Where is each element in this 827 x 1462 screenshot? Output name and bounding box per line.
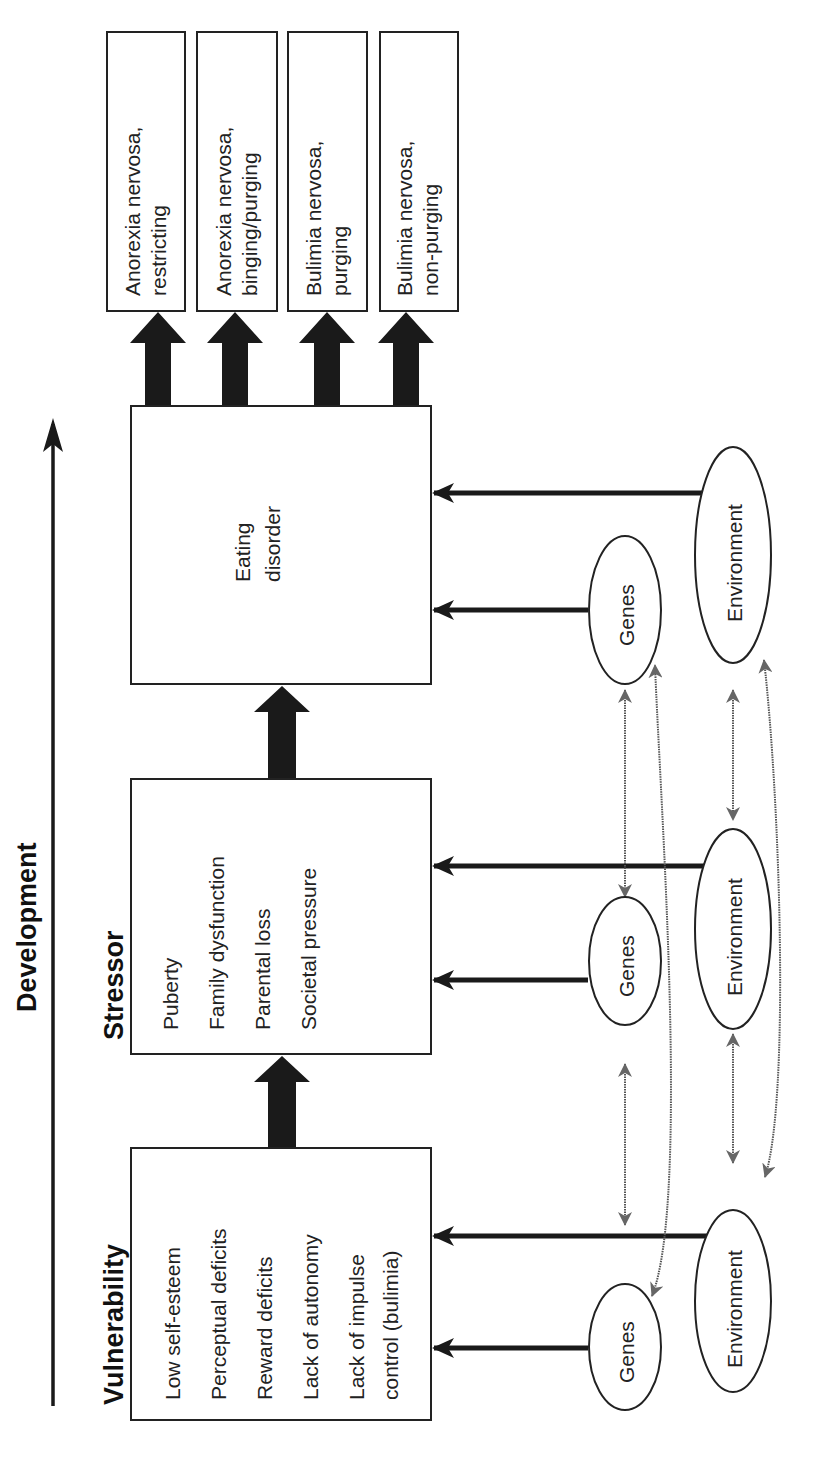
- outcome-bulimia-non-purging: Bulimia nervosa, non-purging: [380, 32, 458, 311]
- environment-label: Environment: [723, 504, 746, 622]
- outcome-line1: Anorexia nervosa,: [121, 127, 144, 296]
- outcome-anorexia-restricting: Anorexia nervosa, restricting: [107, 32, 185, 311]
- eating-disorder-line1: Eating: [231, 522, 254, 582]
- outcome-line1: Bulimia nervosa,: [302, 141, 325, 296]
- vulnerability-item: Low self-esteem: [161, 1247, 184, 1400]
- block-arrow-stressor-to-disorder-icon: [254, 686, 310, 779]
- genes-label: Genes: [615, 1321, 638, 1383]
- outcome-anorexia-binging-purging: Anorexia nervosa, binging/purging: [197, 32, 277, 311]
- vulnerability-item: Reward deficits: [253, 1256, 276, 1400]
- block-arrow-vulnerability-to-stressor-icon: [254, 1056, 310, 1148]
- development-axis: Development: [12, 418, 63, 1406]
- vulnerability-item: Lack of autonomy: [299, 1234, 322, 1400]
- genes-node-vulnerability: Genes: [589, 1284, 661, 1410]
- vulnerability-item: control (bulimia): [379, 1251, 402, 1400]
- block-arrow-icon: [299, 312, 355, 406]
- environment-node-disorder: Environment: [695, 447, 771, 663]
- stressor-item: Puberty: [159, 957, 182, 1030]
- outcome-line2: restricting: [147, 205, 170, 296]
- block-arrow-icon: [130, 312, 186, 406]
- stressor-item: Societal pressure: [297, 868, 320, 1030]
- outcome-block-arrows: [130, 312, 434, 406]
- genes-nodes: Genes Genes Genes: [589, 536, 661, 1410]
- genes-node-disorder: Genes: [589, 536, 661, 684]
- stressor-item: Family dysfunction: [205, 856, 228, 1030]
- genes-label: Genes: [615, 935, 638, 997]
- environment-label: Environment: [723, 878, 746, 996]
- environment-node-vulnerability: Environment: [695, 1210, 771, 1392]
- block-arrow-icon: [378, 312, 434, 406]
- outcome-line1: Anorexia nervosa,: [212, 127, 235, 296]
- environment-node-stressor: Environment: [695, 829, 771, 1029]
- stressor-box: Stressor Puberty Family dysfunction Pare…: [99, 779, 431, 1054]
- outcome-line2: non-purging: [419, 184, 442, 296]
- diagram-canvas: Development Anorexia nervosa, restrictin…: [0, 0, 827, 1462]
- vulnerability-item: Perceptual deficits: [207, 1228, 230, 1400]
- outcome-line2: purging: [328, 226, 351, 296]
- vulnerability-title: Vulnerability: [99, 1244, 129, 1405]
- genes-label: Genes: [615, 584, 638, 646]
- vulnerability-item: Lack of impulse: [345, 1254, 368, 1400]
- outcome-line2: binging/purging: [238, 152, 261, 296]
- block-arrow-icon: [207, 312, 263, 406]
- eating-disorder-box: Eating disorder: [131, 406, 431, 684]
- development-label: Development: [12, 842, 42, 1012]
- outcome-bulimia-purging: Bulimia nervosa, purging: [288, 32, 367, 311]
- environment-label: Environment: [723, 1250, 746, 1368]
- vulnerability-box: Vulnerability Low self-esteem Perceptual…: [99, 1148, 431, 1420]
- outcome-line1: Bulimia nervosa,: [393, 141, 416, 296]
- outcome-boxes: Anorexia nervosa, restricting Anorexia n…: [107, 32, 458, 311]
- eating-disorder-line2: disorder: [261, 506, 284, 582]
- stressor-title: Stressor: [99, 930, 129, 1040]
- genes-node-stressor: Genes: [589, 897, 661, 1025]
- stressor-item: Parental loss: [251, 909, 274, 1030]
- environment-nodes: Environment Environment Environment: [695, 447, 771, 1392]
